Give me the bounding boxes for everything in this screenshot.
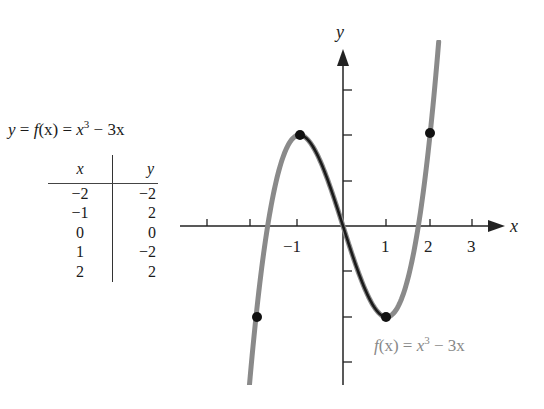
data-point	[252, 312, 262, 322]
data-point	[295, 130, 305, 140]
x-axis-arrow-icon	[488, 220, 505, 232]
y-axis-label: y	[334, 22, 344, 42]
x-axis-label: x	[509, 216, 518, 236]
x-tick-label-1: 1	[381, 237, 390, 256]
x-tick-label-2: 2	[424, 237, 433, 256]
data-point	[425, 128, 435, 138]
x-tick-label-3: 3	[467, 237, 476, 256]
y-axis-arrow-icon	[337, 49, 349, 66]
data-point	[381, 312, 391, 322]
ann-rest: − 3x	[430, 336, 465, 355]
x-tick-label-neg1: −1	[283, 237, 301, 256]
ann-arg: (x) =	[379, 336, 417, 355]
curve-annotation: f(x) = x3 − 3x	[374, 334, 465, 356]
